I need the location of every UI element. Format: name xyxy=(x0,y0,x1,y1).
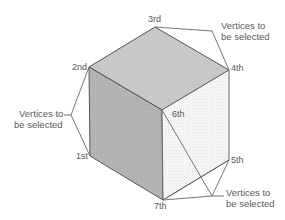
vertex-label-2nd: 2nd xyxy=(72,62,87,72)
callout-bottom-right-line1: Vertices to xyxy=(226,187,270,198)
leader-lines-left xyxy=(64,67,90,156)
vertex-label-3rd: 3rd xyxy=(148,14,161,24)
callout-top-right-line2: be selected xyxy=(221,31,270,42)
vertex-label-1st: 1st xyxy=(76,151,89,161)
callout-bottom-right-line2: be selected xyxy=(226,198,275,209)
callout-left-line1: Vertices to xyxy=(19,108,63,119)
vertex-label-7th: 7th xyxy=(154,201,167,211)
callout-left-line2: be selected xyxy=(14,119,63,130)
vertex-label-6th: 6th xyxy=(172,109,185,119)
vertex-label-5th: 5th xyxy=(231,155,244,165)
callout-top-right-line1: Vertices to xyxy=(221,20,265,31)
vertex-label-4th: 4th xyxy=(231,63,244,73)
cube-diagram: 3rd 2nd 4th 6th 1st 5th 7th Vertices to … xyxy=(0,0,285,220)
